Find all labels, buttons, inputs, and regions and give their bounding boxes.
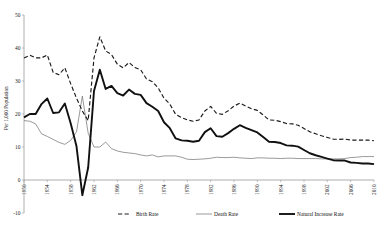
- x-tick-label: 1962: [91, 184, 97, 195]
- x-tick-label: 1986: [231, 184, 237, 195]
- y-tick-label: -10: [13, 210, 20, 216]
- y-tick-label: 50: [15, 12, 21, 18]
- series-line-birth-rate: [24, 37, 374, 141]
- x-tick-label: 1982: [208, 184, 214, 195]
- vital-rates-chart: Per 1,000 Population 50403020100-10 1950…: [0, 0, 378, 229]
- y-axis-title-group: Per 1,000 Population: [3, 86, 9, 130]
- x-tick-label: 1954: [44, 184, 50, 195]
- y-tick-label: 20: [15, 111, 21, 117]
- x-tick-label: 1990: [254, 184, 260, 195]
- legend-label-death-rate: Death Rate: [214, 211, 239, 217]
- x-tick-label: 1974: [161, 184, 167, 195]
- series-line-natural-increase-rate: [24, 70, 374, 195]
- y-tick-label: 10: [15, 144, 21, 150]
- legend-label-natural-increase-rate: Natural Increase Rate: [297, 211, 344, 217]
- legend-label-birth-rate: Birth Rate: [136, 211, 159, 217]
- y-tick-label: 0: [18, 177, 21, 183]
- x-tick-label: 2006: [348, 184, 354, 195]
- x-tick-label: 1994: [278, 184, 284, 195]
- x-tick-label: 1966: [114, 184, 120, 195]
- y-tick-label: 30: [15, 78, 21, 84]
- y-tick-label: 40: [15, 45, 21, 51]
- x-tick-label: 1998: [301, 184, 307, 195]
- x-tick-label: 2002: [324, 184, 330, 195]
- x-tick-label: 1958: [68, 184, 74, 195]
- chart-legend: Birth RateDeath RateNatural Increase Rat…: [118, 211, 344, 217]
- x-tick-label: 2010: [371, 184, 377, 195]
- x-tick-label: 1978: [184, 184, 190, 195]
- y-axis-title: Per 1,000 Population: [3, 86, 9, 130]
- x-tick-label: 1970: [138, 184, 144, 195]
- x-axis-ticks: 1950195419581962196619701974197819821986…: [21, 180, 377, 195]
- series-group: [24, 37, 374, 195]
- chart-canvas: Per 1,000 Population 50403020100-10 1950…: [0, 0, 378, 229]
